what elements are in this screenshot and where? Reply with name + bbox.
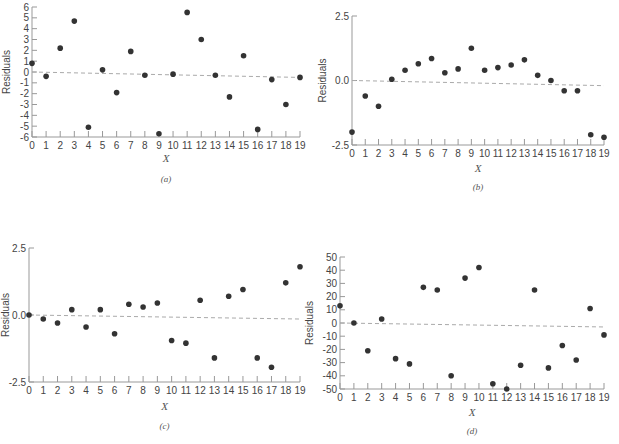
data-point <box>112 331 118 337</box>
data-point <box>240 287 246 293</box>
x-tick-label: 18 <box>585 392 597 403</box>
y-tick-label: 0.0 <box>335 75 349 86</box>
x-tick-label: 3 <box>72 140 78 151</box>
y-tick-label: 30 <box>326 278 338 289</box>
x-tick-label: 2 <box>57 140 63 151</box>
x-tick-label: 2 <box>55 385 61 396</box>
data-point <box>255 127 261 133</box>
data-point <box>69 307 75 313</box>
data-point <box>389 76 395 82</box>
x-tick-label: 10 <box>479 148 491 159</box>
y-tick-label: -1 <box>20 77 29 88</box>
y-tick-label: -20 <box>323 344 338 355</box>
chart-caption: (b) <box>473 182 484 192</box>
x-tick-label: 3 <box>389 148 395 159</box>
y-tick-label: 2 <box>23 45 29 56</box>
x-tick-label: 19 <box>598 148 610 159</box>
x-tick-label: 14 <box>223 385 235 396</box>
data-point <box>155 300 161 306</box>
x-tick-label: 2 <box>376 148 382 159</box>
data-point <box>575 88 581 94</box>
x-tick-label: 1 <box>362 148 368 159</box>
y-tick-label: 20 <box>326 291 338 302</box>
x-tick-label: 6 <box>112 385 118 396</box>
reference-line <box>32 72 300 77</box>
x-tick-label: 16 <box>252 140 264 151</box>
y-tick-label: 2.5 <box>12 243 26 254</box>
x-axis-label: X <box>468 406 477 418</box>
reference-line <box>29 315 300 319</box>
data-point <box>86 124 92 130</box>
x-tick-label: 1 <box>351 392 357 403</box>
x-tick-label: 0 <box>349 148 355 159</box>
data-point <box>482 67 488 73</box>
y-axis-label: Residuals <box>0 293 11 337</box>
x-tick-label: 10 <box>473 392 485 403</box>
x-tick-label: 18 <box>280 140 292 151</box>
data-point <box>434 287 440 293</box>
data-point <box>283 102 289 108</box>
x-tick-label: 15 <box>543 392 555 403</box>
x-axis-label: X <box>162 152 171 164</box>
data-point <box>407 361 413 367</box>
data-point <box>601 332 607 338</box>
x-tick-label: 7 <box>128 140 134 151</box>
y-axis-label: Residuals <box>1 50 12 94</box>
data-point <box>362 93 368 99</box>
data-point <box>55 320 61 326</box>
x-tick-label: 15 <box>545 148 557 159</box>
y-tick-label: -30 <box>323 357 338 368</box>
chart-d: 50403020100-10-20-30-40-5001234567891011… <box>304 252 610 437</box>
y-tick-label: 2.5 <box>335 11 349 22</box>
chart-caption: (c) <box>160 421 170 431</box>
data-point <box>170 71 176 77</box>
residual-plots-figure: 6543210-1-2-3-4-5-6012345678910111213141… <box>0 0 619 444</box>
data-point <box>57 45 63 51</box>
data-point <box>126 301 132 307</box>
data-point <box>429 56 435 62</box>
data-point <box>416 61 422 67</box>
x-tick-label: 12 <box>195 385 207 396</box>
data-point <box>495 65 501 71</box>
data-point <box>402 67 408 73</box>
data-point <box>379 316 385 322</box>
data-point <box>169 338 175 344</box>
x-tick-label: 14 <box>224 140 236 151</box>
y-tick-label: 50 <box>326 252 338 263</box>
x-tick-label: 7 <box>126 385 132 396</box>
data-point <box>198 37 204 43</box>
data-point <box>448 373 454 379</box>
chart-caption: (a) <box>161 174 172 184</box>
reference-line <box>340 323 604 327</box>
data-point <box>226 293 232 299</box>
x-tick-label: 5 <box>100 140 106 151</box>
data-point <box>100 67 106 73</box>
y-tick-label: 5 <box>23 12 29 23</box>
x-tick-label: 8 <box>142 140 148 151</box>
x-tick-label: 6 <box>429 148 435 159</box>
x-tick-label: 9 <box>155 385 161 396</box>
x-tick-label: 11 <box>182 140 193 151</box>
data-point <box>40 316 46 322</box>
x-tick-label: 4 <box>83 385 89 396</box>
data-point <box>283 280 289 286</box>
data-point <box>518 362 524 368</box>
y-tick-label: -2.5 <box>332 140 350 151</box>
x-tick-label: 0 <box>26 385 32 396</box>
x-tick-label: 8 <box>448 392 454 403</box>
x-tick-label: 15 <box>237 385 249 396</box>
x-tick-label: 8 <box>140 385 146 396</box>
data-point <box>508 62 514 68</box>
x-tick-label: 17 <box>266 140 278 151</box>
data-point <box>297 264 303 270</box>
data-point <box>532 287 538 293</box>
data-point <box>72 18 78 24</box>
x-tick-label: 17 <box>266 385 278 396</box>
data-point <box>114 90 120 96</box>
x-tick-label: 2 <box>365 392 371 403</box>
x-tick-label: 5 <box>407 392 413 403</box>
data-point <box>29 61 35 67</box>
data-point <box>476 265 482 271</box>
y-tick-label: -50 <box>323 384 338 395</box>
x-tick-label: 9 <box>469 148 475 159</box>
